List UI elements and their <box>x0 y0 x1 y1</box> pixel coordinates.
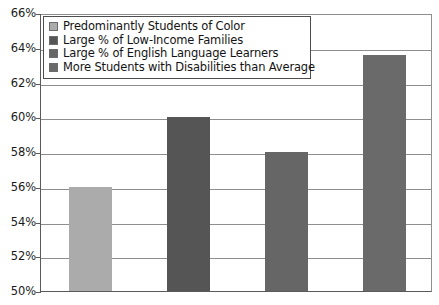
y-axis-tickmark <box>36 14 41 15</box>
legend-item-label: Large % of Low-Income Families <box>63 34 243 48</box>
legend-color-swatch-icon <box>49 22 58 31</box>
y-axis-tickmark <box>36 257 41 258</box>
y-axis-tick-label: 58% <box>2 147 36 159</box>
legend-color-swatch-icon <box>49 36 58 45</box>
bar <box>265 152 308 291</box>
y-axis-tick-label: 60% <box>2 112 36 124</box>
legend-color-swatch-icon <box>49 49 58 58</box>
legend-color-swatch-icon <box>49 63 58 72</box>
legend-item: Large % of English Language Learners <box>49 47 305 61</box>
y-axis-tickmark <box>36 223 41 224</box>
y-axis: 66%64%62%60%58%56%54%52%50% <box>0 0 36 305</box>
y-axis-tick-label: 56% <box>2 182 36 194</box>
y-axis-tick-label: 66% <box>2 8 36 20</box>
y-axis-tickmark <box>36 153 41 154</box>
y-axis-tick-label: 54% <box>2 217 36 229</box>
bar <box>363 55 406 291</box>
y-axis-tick-label: 50% <box>2 286 36 298</box>
legend: Predominantly Students of ColorLarge % o… <box>43 16 311 79</box>
y-axis-tick-label: 52% <box>2 251 36 263</box>
y-axis-tick-label: 64% <box>2 43 36 55</box>
legend-item-label: More Students with Disabilities than Ave… <box>63 61 315 75</box>
y-axis-tickmark <box>36 49 41 50</box>
legend-item: More Students with Disabilities than Ave… <box>49 61 305 75</box>
bar <box>69 187 112 291</box>
legend-item-label: Predominantly Students of Color <box>63 20 245 34</box>
legend-item: Large % of Low-Income Families <box>49 34 305 48</box>
legend-item-label: Large % of English Language Learners <box>63 47 278 61</box>
y-axis-tickmark <box>36 188 41 189</box>
legend-item: Predominantly Students of Color <box>49 20 305 34</box>
y-axis-tickmark <box>36 292 41 293</box>
bar-chart: 66%64%62%60%58%56%54%52%50% Predominantl… <box>0 0 439 305</box>
y-axis-tickmark <box>36 118 41 119</box>
y-axis-tickmark <box>36 84 41 85</box>
y-axis-tick-label: 62% <box>2 78 36 90</box>
bar <box>167 117 210 291</box>
